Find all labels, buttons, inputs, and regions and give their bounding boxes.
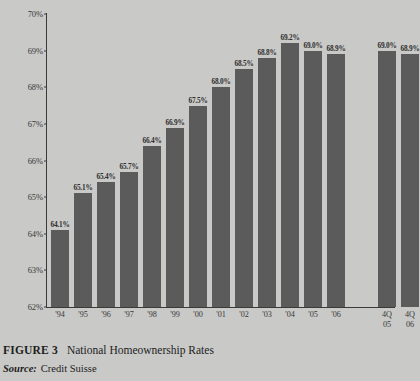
y-axis-tick-mark — [44, 197, 47, 198]
bar-value-label: 65.4% — [96, 172, 115, 181]
y-axis-tick-mark — [44, 307, 47, 308]
bar-group: 68.9% — [327, 14, 345, 307]
y-axis-tick-label: 66% — [28, 156, 43, 166]
y-axis-tick-label: 62% — [28, 302, 43, 312]
bar-group: 66.9% — [166, 14, 184, 307]
bar[interactable] — [212, 87, 230, 307]
bar-group: 65.7% — [120, 14, 138, 307]
x-axis-tick-label: 4Q 05 — [382, 310, 392, 330]
bar-group: 64.1% — [51, 14, 69, 307]
bar-value-label: 69.0% — [377, 41, 396, 50]
bar[interactable] — [401, 54, 419, 307]
source-label: Source: — [3, 363, 37, 374]
bar[interactable] — [120, 172, 138, 308]
y-axis-tick-mark — [44, 123, 47, 124]
bar[interactable] — [378, 51, 396, 307]
x-axis-tick-label: '01 — [216, 310, 225, 320]
bar[interactable] — [51, 230, 69, 307]
plot-area: 70%69%68%67%66%65%64%63%62%64.1%65.1%65.… — [47, 14, 395, 307]
bar[interactable] — [166, 128, 184, 307]
bar-value-label: 68.5% — [234, 59, 253, 68]
bar[interactable] — [189, 106, 207, 307]
bar[interactable] — [327, 54, 345, 307]
x-axis-tick-label: 4Q 06 — [405, 310, 415, 330]
y-axis-tick-label: 64% — [28, 229, 43, 239]
bar-value-label: 66.9% — [165, 118, 184, 127]
bar-value-label: 68.9% — [326, 44, 345, 53]
bar-group: 68.5% — [235, 14, 253, 307]
x-axis-tick-label: '00 — [193, 310, 202, 320]
bar-value-label: 69.2% — [280, 33, 299, 42]
x-axis-tick-label: '06 — [331, 310, 340, 320]
bar-group: 68.0% — [212, 14, 230, 307]
x-axis-tick-label: '04 — [285, 310, 294, 320]
bar[interactable] — [97, 182, 115, 307]
y-axis-tick-label: 67% — [28, 119, 43, 129]
bar-value-label: 64.1% — [50, 220, 69, 229]
bar[interactable] — [74, 193, 92, 307]
bar-value-label: 68.9% — [400, 44, 419, 53]
bar-value-label: 69.0% — [303, 41, 322, 50]
y-axis-tick-label: 69% — [28, 46, 43, 56]
x-axis-tick-label: '94 — [55, 310, 64, 320]
figure-number: FIGURE 3 — [3, 344, 58, 356]
figure-caption: FIGURE 3National Homeownership Rates — [3, 344, 214, 356]
y-axis-tick-label: 65% — [28, 192, 43, 202]
x-axis-line — [46, 307, 395, 308]
x-axis-tick-label: '97 — [124, 310, 133, 320]
source-line: Source:Credit Suisse — [3, 363, 97, 374]
bar-group: 69.0% — [378, 14, 396, 307]
y-axis-tick-mark — [44, 270, 47, 271]
bar-group: 68.9% — [401, 14, 419, 307]
bar[interactable] — [143, 146, 161, 307]
y-axis-tick-label: 63% — [28, 265, 43, 275]
bar-value-label: 67.5% — [188, 96, 207, 105]
bar-value-label: 68.0% — [211, 77, 230, 86]
bar-group: 68.8% — [258, 14, 276, 307]
figure-title: National Homeownership Rates — [67, 344, 214, 356]
x-axis-tick-label: '98 — [147, 310, 156, 320]
x-axis-tick-label: '99 — [170, 310, 179, 320]
y-axis-tick-label: 70% — [28, 9, 43, 19]
bar-group: 67.5% — [189, 14, 207, 307]
bar-value-label: 65.7% — [119, 162, 138, 171]
x-axis-tick-label: '05 — [308, 310, 317, 320]
y-axis-tick-mark — [44, 233, 47, 234]
x-axis-tick-label: '02 — [239, 310, 248, 320]
bar-value-label: 66.4% — [142, 136, 161, 145]
x-axis-tick-label: '96 — [101, 310, 110, 320]
bar-group: 69.2% — [281, 14, 299, 307]
y-axis-tick-label: 68% — [28, 82, 43, 92]
bar[interactable] — [304, 51, 322, 307]
source-value: Credit Suisse — [41, 363, 97, 374]
y-axis-tick-mark — [44, 14, 47, 15]
y-axis-tick-mark — [44, 160, 47, 161]
y-axis-tick-mark — [44, 50, 47, 51]
y-axis-tick-mark — [44, 87, 47, 88]
bar-group: 65.1% — [74, 14, 92, 307]
bar[interactable] — [235, 69, 253, 307]
x-axis-tick-label: '95 — [78, 310, 87, 320]
bar[interactable] — [281, 43, 299, 307]
bar-group: 69.0% — [304, 14, 322, 307]
bar-value-label: 65.1% — [73, 183, 92, 192]
bar-group: 65.4% — [97, 14, 115, 307]
bar-group: 66.4% — [143, 14, 161, 307]
bar-value-label: 68.8% — [257, 48, 276, 57]
x-axis-tick-label: '03 — [262, 310, 271, 320]
bar[interactable] — [258, 58, 276, 307]
